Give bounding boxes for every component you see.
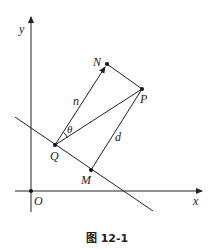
- segment-NP: [107, 64, 142, 89]
- label-Q: Q: [50, 149, 59, 163]
- diagram-canvas: y x O N P Q M n d θ 图 12-1: [0, 0, 215, 249]
- point-Q: [53, 143, 57, 147]
- vector-n: [55, 67, 105, 145]
- label-n: n: [73, 94, 79, 108]
- point-M: [89, 168, 93, 172]
- label-M: M: [80, 173, 92, 187]
- figure-caption: 图 12-1: [86, 232, 128, 245]
- point-N: [105, 62, 109, 66]
- point-P: [140, 87, 144, 91]
- label-d: d: [115, 130, 122, 144]
- point-O: [29, 189, 33, 193]
- y-axis-label: y: [18, 22, 25, 36]
- label-theta: θ: [67, 123, 73, 135]
- segment-QP: [55, 89, 142, 145]
- label-N: N: [92, 55, 102, 69]
- x-axis-label: x: [192, 194, 199, 208]
- label-P: P: [139, 92, 148, 106]
- origin-label: O: [34, 194, 43, 208]
